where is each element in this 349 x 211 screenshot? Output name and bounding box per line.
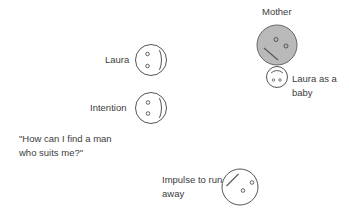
intention-face xyxy=(136,93,167,124)
impulse-face xyxy=(222,169,258,205)
laura-label: Laura xyxy=(105,53,129,67)
laura-face xyxy=(136,45,167,76)
quote-line1: "How can I find a man xyxy=(19,132,112,146)
baby-label-line2: baby xyxy=(292,86,313,100)
impulse-label-line2: away xyxy=(162,187,184,201)
quote-line2: who suits me?" xyxy=(19,146,83,160)
baby-label-line1: Laura as a xyxy=(292,72,337,86)
intention-label: Intention xyxy=(90,101,126,115)
impulse-label-line1: Impulse to run xyxy=(162,173,222,187)
baby-face xyxy=(267,67,288,88)
mother-label: Mother xyxy=(262,5,292,19)
mother-face xyxy=(257,25,297,65)
